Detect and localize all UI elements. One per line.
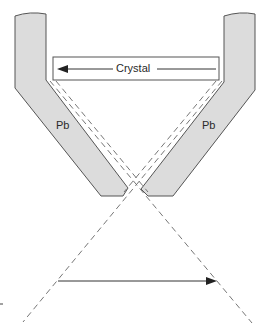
left-pb-label: Pb — [56, 119, 69, 131]
object-arrow-head — [206, 277, 217, 285]
collimator-diagram: Crystal Pb Pb — [0, 0, 264, 333]
right-pb-label: Pb — [202, 119, 215, 131]
left-lead-shield — [15, 13, 128, 196]
crystal-label: Crystal — [116, 62, 150, 74]
right-lead-shield — [141, 13, 255, 196]
